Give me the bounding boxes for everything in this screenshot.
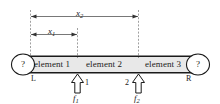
force-arrow-f1 — [72, 74, 84, 93]
beam-end-label-left: L — [31, 75, 36, 83]
element-label-2: element 2 — [86, 60, 122, 69]
left-support-unknown-label: ? — [18, 60, 28, 69]
right-support-unknown-label: ? — [193, 60, 203, 69]
node-label-2: 2 — [125, 79, 129, 87]
force-label-f1: f1 — [73, 94, 79, 104]
beam-element-diagram: x2 x1 ? ? element 1 element 2 element 3 … — [0, 0, 220, 104]
dimension-label-x1: x1 — [48, 27, 55, 38]
element-label-1: element 1 — [34, 60, 70, 69]
node-label-1: 1 — [85, 79, 89, 87]
element-label-3: element 3 — [145, 60, 181, 69]
diagram-canvas — [0, 0, 220, 104]
force-arrow-f2 — [133, 74, 145, 93]
force-label-f2: f2 — [134, 94, 140, 104]
dimension-label-x2: x2 — [76, 9, 83, 20]
dimension-line-x2 — [31, 14, 138, 18]
beam-end-label-right: R — [186, 75, 191, 83]
